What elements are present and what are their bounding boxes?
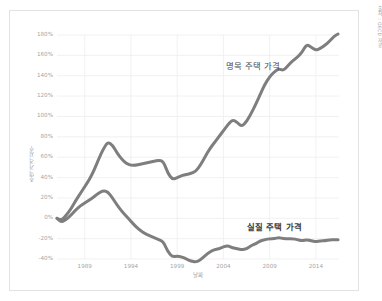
plot-area: 180%160%140%120%100%80%60%40%20%0%-20%-4…	[57, 35, 339, 259]
y-axis-tick-label: -20%	[39, 236, 53, 242]
y-axis-tick-label: 60%	[41, 154, 53, 160]
y-axis-tick-label: 140%	[37, 73, 53, 79]
x-axis-title: 날짜	[57, 273, 339, 278]
y-axis-title: 주택 가격 지수	[30, 147, 35, 182]
x-axis-tick-label: 1994	[124, 264, 138, 270]
y-axis-tick-label: 100%	[37, 114, 53, 120]
series-label: 실질 주택 가격	[247, 223, 302, 231]
source-credit: 출처 : OECD 자료	[376, 6, 381, 49]
chart-card: 180%160%140%120%100%80%60%40%20%0%-20%-4…	[9, 10, 359, 291]
y-axis-tick-label: 80%	[41, 134, 53, 140]
y-axis-tick-label: -40%	[39, 256, 53, 262]
y-axis-tick-label: 20%	[41, 195, 53, 201]
x-axis-tick-label: 2009	[263, 264, 277, 270]
y-axis-tick-label: 0%	[44, 215, 53, 221]
chart-screenshot: 180%160%140%120%100%80%60%40%20%0%-20%-4…	[0, 0, 382, 301]
series-label: 명목 주택 가격	[226, 61, 281, 69]
x-axis-tick-label: 1989	[78, 264, 92, 270]
x-axis-tick-label: 2014	[309, 264, 323, 270]
x-axis-tick-label: 1999	[170, 264, 184, 270]
x-axis-tick-label: 2004	[216, 264, 230, 270]
y-axis-tick-label: 160%	[37, 53, 53, 59]
y-axis-tick-label: 120%	[37, 93, 53, 99]
y-axis-tick-label: 40%	[41, 175, 53, 181]
y-axis-tick-label: 180%	[37, 32, 53, 38]
